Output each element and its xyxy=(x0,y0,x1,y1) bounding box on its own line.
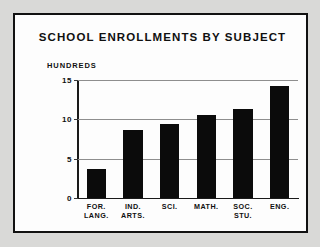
bar xyxy=(270,86,289,198)
x-axis-category-label: SCI. xyxy=(151,202,188,211)
chart-figure: SCHOOL ENROLLMENTS BY SUBJECT HUNDREDS 0… xyxy=(0,0,320,247)
y-axis-unit-label: HUNDREDS xyxy=(47,61,97,70)
bar xyxy=(160,124,179,198)
x-axis-category-label: SOC. STU. xyxy=(225,202,262,220)
y-axis-tick-label: 10 xyxy=(62,115,72,124)
y-axis-tick xyxy=(74,159,78,160)
bar xyxy=(123,130,142,198)
x-axis-category-label: ENG. xyxy=(261,202,298,211)
y-axis-tick-label: 15 xyxy=(62,76,72,85)
x-axis-category-label: IND. ARTS. xyxy=(115,202,152,220)
x-axis-category-label: FOR. LANG. xyxy=(78,202,115,220)
x-axis-line xyxy=(77,198,299,200)
y-axis-tick xyxy=(74,119,78,120)
y-axis-line xyxy=(77,80,79,198)
bar xyxy=(87,169,106,198)
plot-area: 051015 xyxy=(78,80,298,198)
x-axis-category-label: MATH. xyxy=(188,202,225,211)
y-axis-tick xyxy=(74,198,78,199)
y-axis-tick-label: 5 xyxy=(67,154,72,163)
bar xyxy=(233,109,252,198)
chart-title: SCHOOL ENROLLMENTS BY SUBJECT xyxy=(15,31,310,43)
gridline xyxy=(78,119,298,120)
y-axis-tick xyxy=(74,80,78,81)
bar xyxy=(197,115,216,198)
gridline xyxy=(78,80,298,81)
y-axis-tick-label: 0 xyxy=(67,194,72,203)
gridline xyxy=(78,159,298,160)
chart-frame: SCHOOL ENROLLMENTS BY SUBJECT HUNDREDS 0… xyxy=(13,13,308,233)
